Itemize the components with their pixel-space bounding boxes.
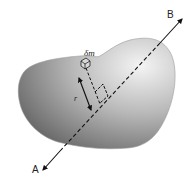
rigid-body-shape	[18, 38, 175, 149]
axis-label-b: B	[167, 9, 174, 20]
axis-line-a-outside	[43, 151, 60, 170]
axis-line-b-outside	[160, 19, 182, 43]
axis-label-a: A	[32, 164, 39, 175]
rigid-body-diagram: B A δm r	[0, 0, 193, 182]
mass-element-label: δm	[84, 48, 95, 58]
